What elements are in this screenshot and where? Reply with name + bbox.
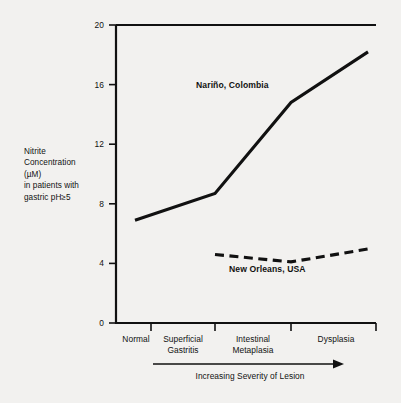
- chart-figure: Nitrite Concentration (µM) in patients w…: [0, 0, 401, 403]
- severity-arrow: [153, 360, 344, 369]
- x-tick-label-superficial-gastritis: Superficial Gastritis: [152, 334, 214, 356]
- x-tick-label-dysplasia: Dysplasia: [303, 334, 369, 345]
- x-axis-caption: Increasing Severity of Lesion: [120, 371, 380, 381]
- plot-frame: [116, 25, 376, 323]
- x-axis-ticks: [151, 323, 376, 331]
- x-tick-label-intestinal-metaplasia: Intestinal Metaplasia: [222, 334, 284, 356]
- series-label-narino-colombia: Nariño, Colombia: [196, 80, 269, 90]
- y-tick-label-12: 12: [84, 139, 104, 149]
- y-tick-label-8: 8: [84, 199, 104, 209]
- y-tick-label-4: 4: [84, 258, 104, 268]
- series-label-new-orleans-usa: New Orleans, USA: [229, 264, 306, 274]
- y-tick-label-20: 20: [84, 20, 104, 30]
- series-line-new-orleans-usa: [215, 249, 368, 262]
- y-tick-label-16: 16: [84, 80, 104, 90]
- y-tick-label-0: 0: [84, 318, 104, 328]
- y-axis-label: Nitrite Concentration (µM) in patients w…: [24, 146, 110, 203]
- series-line-narino-colombia: [135, 52, 368, 220]
